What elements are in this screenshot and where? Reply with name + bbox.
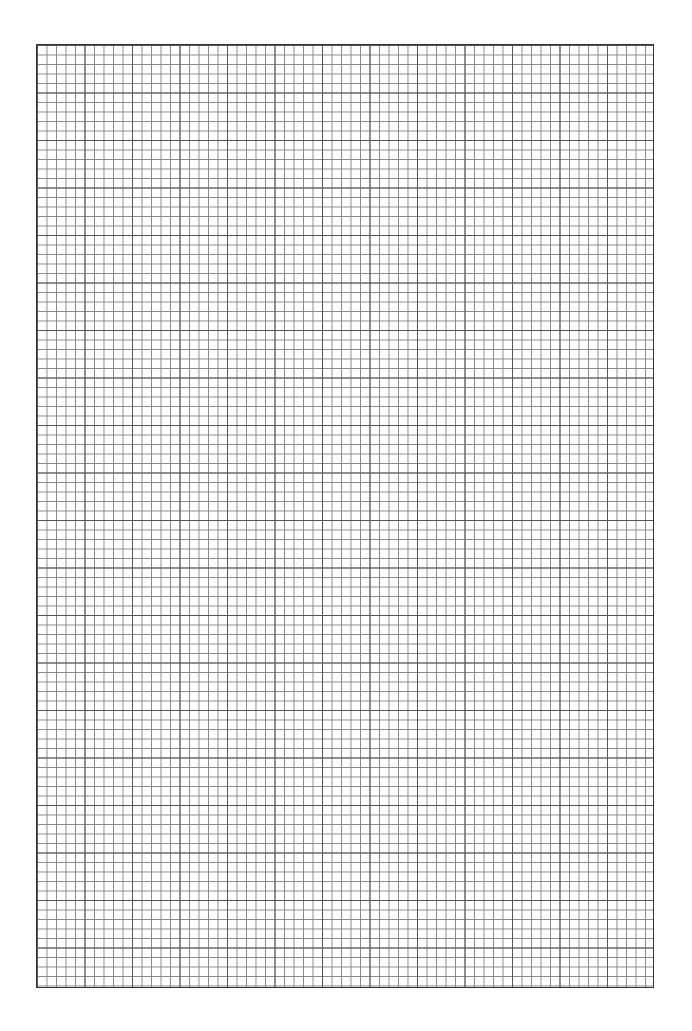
graph-paper-grid <box>36 44 654 988</box>
